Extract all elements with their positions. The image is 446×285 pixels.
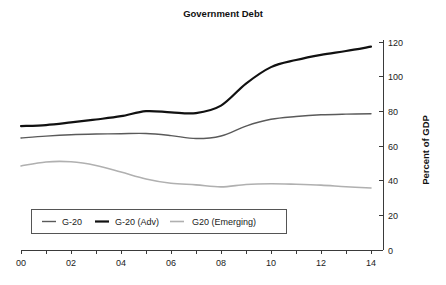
x-tick-label: 14 [366, 258, 376, 268]
series-line-2 [21, 161, 371, 188]
series-layer [21, 47, 371, 188]
legend-label-2: G20 (Emerging) [192, 217, 256, 227]
legend-label-0: G-20 [62, 217, 82, 227]
y-tick-label: 80 [388, 107, 398, 117]
chart-canvas: Government Debt 020406080100120 00020406… [0, 0, 446, 285]
legend-label-1: G-20 (Adv) [115, 217, 159, 227]
x-tick-label: 12 [316, 258, 326, 268]
y-tick-label: 40 [388, 176, 398, 186]
y-tick-label: 60 [388, 142, 398, 152]
y-tick-label: 20 [388, 211, 398, 221]
x-tick-label: 06 [166, 258, 176, 268]
chart-title: Government Debt [183, 8, 264, 19]
x-tick-label: 00 [16, 258, 26, 268]
y-tick-label: 100 [388, 72, 403, 82]
x-tick-label: 04 [116, 258, 126, 268]
chart-legend: G-20G-20 (Adv)G20 (Emerging) [31, 209, 286, 233]
y-tick-label: 0 [388, 246, 393, 256]
series-line-0 [21, 114, 371, 139]
y-tick-label: 120 [388, 38, 403, 48]
series-line-1 [21, 47, 371, 126]
y-axis: 020406080100120 [379, 38, 403, 256]
x-axis: 0002040608101214 [16, 250, 383, 268]
x-tick-label: 02 [66, 258, 76, 268]
x-tick-label: 10 [266, 258, 276, 268]
y-axis-title: Percent of GDP [420, 114, 431, 184]
government-debt-chart: Government Debt 020406080100120 00020406… [0, 0, 446, 285]
x-tick-label: 08 [216, 258, 226, 268]
